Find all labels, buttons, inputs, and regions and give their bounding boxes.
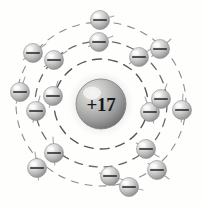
electron-highlight: [103, 170, 110, 175]
electron-highlight: [30, 162, 37, 167]
electron-highlight: [13, 86, 20, 91]
electron-highlight: [153, 43, 160, 48]
electron-highlight: [46, 90, 53, 95]
electron-highlight: [122, 181, 129, 186]
electron: [119, 178, 144, 197]
electron: [136, 140, 159, 159]
electron-highlight: [93, 14, 100, 19]
nucleus: +17: [68, 71, 134, 137]
electron-highlight: [26, 47, 33, 52]
electron: [44, 81, 63, 107]
electron: [148, 161, 170, 180]
electron: [173, 94, 192, 122]
electron-highlight: [139, 143, 146, 148]
electron-highlight: [132, 51, 139, 56]
electron: [23, 44, 46, 63]
electron-highlight: [154, 93, 161, 98]
electron: [89, 33, 114, 52]
electron: [90, 11, 115, 30]
electron-highlight: [92, 36, 99, 41]
electron: [45, 137, 64, 165]
electron-highlight: [47, 54, 54, 59]
electron: [129, 48, 152, 67]
bohr-atom-diagram: +17: [0, 0, 203, 206]
electron-highlight: [47, 147, 54, 152]
electron: [151, 39, 172, 59]
electron-highlight: [175, 104, 182, 109]
electron: [44, 51, 67, 70]
electron-highlight: [150, 164, 157, 169]
electron-highlight: [29, 105, 36, 110]
atom-illustration: +17: [0, 0, 203, 206]
electron: [28, 152, 47, 180]
nucleus-charge-label: +17: [86, 94, 116, 115]
electron-highlight: [143, 106, 150, 111]
electron: [27, 96, 46, 122]
